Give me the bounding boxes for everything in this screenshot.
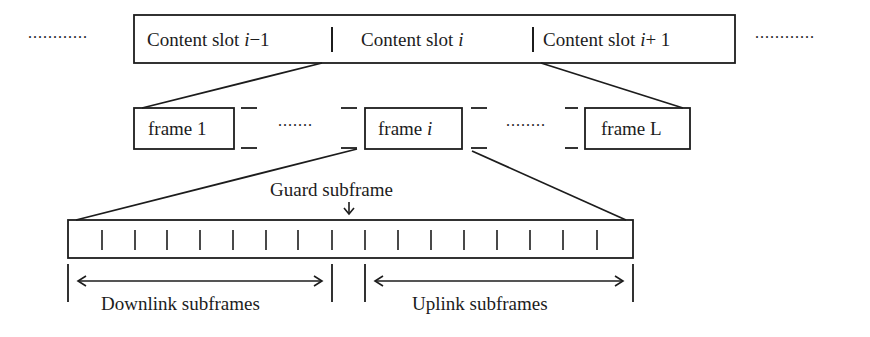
frame-L-label: frame L (601, 119, 662, 138)
frame-i-label: frame i (378, 119, 432, 138)
zoom-line-slot-left (142, 63, 322, 108)
uplink-subframes-label: Uplink subframes (412, 294, 548, 313)
downlink-double-arrow-icon (78, 276, 322, 286)
right-ellipsis: ............ (755, 24, 815, 42)
zoom-line-slot-right (541, 63, 683, 108)
content-slot-current-label: Content slot i (361, 30, 463, 49)
frame-ellipsis-right: ........ (506, 112, 546, 130)
downlink-subframes-label: Downlink subframes (101, 294, 260, 313)
zoom-line-frame-right (472, 151, 626, 220)
frame-ellipsis-left: ....... (278, 112, 313, 130)
guard-arrow-icon (344, 202, 354, 214)
subframe-ticks (102, 230, 597, 250)
content-slot-next-label: Content slot i+ 1 (543, 30, 670, 49)
left-ellipsis: ............ (28, 24, 88, 42)
guard-subframe-label: Guard subframe (270, 180, 393, 199)
uplink-double-arrow-icon (375, 276, 623, 286)
subframe-box (68, 220, 633, 258)
diagram-canvas (0, 0, 870, 337)
content-slot-prev-label: Content slot i−1 (147, 30, 270, 49)
frame-1-label: frame 1 (148, 119, 207, 138)
